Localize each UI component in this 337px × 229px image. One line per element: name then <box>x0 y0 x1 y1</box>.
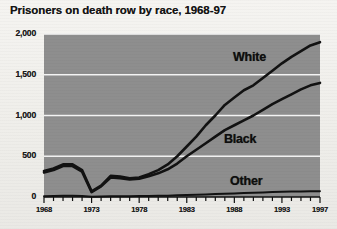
x-axis-tick-label: 1968 <box>27 205 61 214</box>
x-axis-tick-label: 1983 <box>170 205 204 214</box>
chart-svg <box>0 0 337 229</box>
x-axis-tick-label: 1988 <box>217 205 251 214</box>
x-axis-tick-label: 1978 <box>122 205 156 214</box>
plot-area: 05001,0001,5002,000 19681973197819831988… <box>0 0 337 229</box>
chart-page: Prisoners on death row by race, 1968-97 … <box>0 0 337 229</box>
series-label-white: White <box>233 50 266 64</box>
x-axis-ticks-group <box>44 197 320 203</box>
y-axis-tick-label: 1,500 <box>0 69 36 79</box>
x-axis-tick-label: 1973 <box>75 205 109 214</box>
x-axis-tick-label: 1993 <box>265 205 299 214</box>
y-axis-tick-label: 2,000 <box>0 28 36 38</box>
y-axis-tick-label: 0 <box>0 191 36 201</box>
x-axis-tick-label: 1997 <box>303 205 337 214</box>
series-label-black: Black <box>224 132 256 146</box>
series-label-other: Other <box>230 174 262 188</box>
y-axis-tick-label: 500 <box>0 150 36 160</box>
y-axis-tick-label: 1,000 <box>0 110 36 120</box>
